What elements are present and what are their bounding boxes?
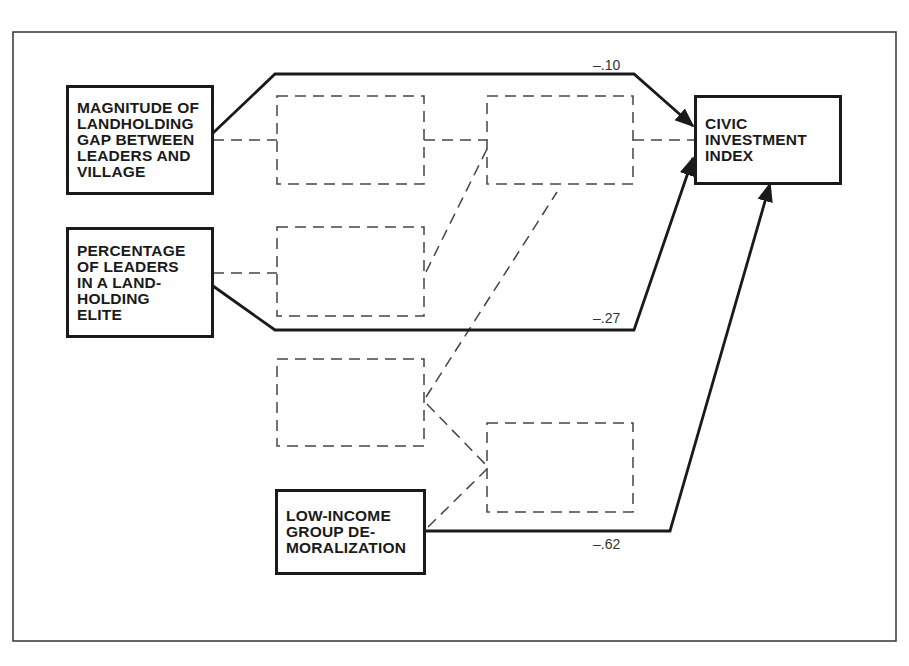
path-demoralization-to-civic — [425, 184, 770, 531]
node-civic-investment-index: CIVIC INVESTMENT INDEX — [694, 95, 842, 185]
path-gap-to-civic — [213, 74, 693, 133]
dashed-box-2 — [487, 96, 633, 184]
node-landholding-elite: PERCENTAGE OF LEADERS IN A LAND- HOLDING… — [66, 227, 214, 338]
dashed-box-1 — [277, 96, 424, 184]
coefficient-gap: –.10 — [593, 57, 620, 73]
dashed-box-3 — [277, 227, 424, 316]
dashed-box-5 — [487, 423, 633, 512]
dashed-box-4 — [277, 359, 424, 446]
path-elite-to-civic — [213, 158, 693, 330]
coefficient-elite: –.27 — [593, 310, 620, 326]
coefficient-demoralization: –.62 — [593, 536, 620, 552]
node-landholding-gap: MAGNITUDE OF LANDHOLDING GAP BETWEEN LEA… — [66, 85, 214, 195]
node-demoralization: LOW-INCOME GROUP DE- MORALIZATION — [275, 489, 426, 575]
